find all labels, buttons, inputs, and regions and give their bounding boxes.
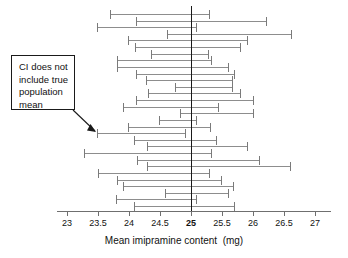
confidence-interval-upper-cap [290,162,291,171]
confidence-interval-bar [128,127,211,128]
confidence-interval-bar [134,206,235,207]
confidence-interval-upper-cap [266,17,267,26]
confidence-interval-bar [97,27,197,28]
confidence-interval-lower-cap [117,63,118,72]
confidence-interval-lower-cap [134,202,135,211]
confidence-interval-upper-cap [210,123,211,132]
confidence-interval-bar [97,133,186,134]
confidence-interval-bar [175,87,233,88]
confidence-interval-lower-cap [137,156,138,165]
confidence-interval-upper-cap [291,30,292,39]
x-axis-tick [284,212,285,216]
confidence-interval-bar [98,173,210,174]
plot-area: 2323.52424.52525.52626.527 Mean imiprami… [0,0,348,258]
confidence-interval-bar [117,180,222,181]
confidence-interval-bar [151,54,209,55]
confidence-interval-lower-cap [135,43,136,52]
confidence-interval-lower-cap [136,70,137,79]
confidence-interval-lower-cap [128,36,129,45]
confidence-interval-upper-cap [253,109,254,118]
x-axis-tick [98,212,99,216]
confidence-interval-upper-cap [234,202,235,211]
confidence-interval-bar [148,93,241,94]
confidence-interval-bar [147,166,291,167]
confidence-interval-upper-cap [234,70,235,79]
confidence-interval-bar [167,34,292,35]
confidence-interval-bar [110,14,210,15]
confidence-interval-lower-cap [98,169,99,178]
confidence-interval-figure: 2323.52424.52525.52626.527 Mean imiprami… [0,0,348,258]
callout-line-1: CI does not [19,61,68,74]
confidence-interval-bar [117,60,212,61]
confidence-interval-upper-cap [228,189,229,198]
confidence-interval-upper-cap [247,36,248,45]
confidence-interval-bar [123,186,234,187]
x-axis-tick [253,212,254,216]
confidence-interval-row [134,202,235,211]
confidence-interval-bar [147,146,248,147]
confidence-interval-lower-cap [97,23,98,32]
confidence-interval-lower-cap [123,103,124,112]
x-axis-tick [315,212,316,216]
x-axis-tick-label: 27 [295,218,335,229]
x-axis-title: Mean imipramine content (mg) [0,235,348,246]
confidence-interval-lower-cap [110,10,111,19]
confidence-interval-lower-cap [134,136,135,145]
confidence-interval-bar [84,153,212,154]
ci-does-not-include-true-mean-callout: CI does not include true population mean [11,55,75,110]
confidence-interval-upper-cap [240,43,241,52]
confidence-interval-bar [123,107,219,108]
true-population-mean-line [191,6,193,216]
x-axis-tick [191,212,192,216]
confidence-interval-bar [135,47,241,48]
x-axis-tick [67,212,68,216]
confidence-interval-bar [134,140,217,141]
x-axis-tick [160,212,161,216]
confidence-interval-lower-cap [117,176,118,185]
confidence-interval-upper-cap [233,182,234,191]
confidence-interval-bar [117,67,229,68]
confidence-interval-bar [136,21,267,22]
callout-line-4: mean [19,99,68,112]
confidence-interval-bar [128,40,248,41]
confidence-interval-lower-cap [146,76,147,85]
confidence-interval-lower-cap [123,182,124,191]
confidence-interval-bar [136,100,254,101]
confidence-interval-upper-cap [247,142,248,151]
confidence-interval-bar [116,199,197,200]
confidence-interval-bar [165,193,229,194]
confidence-interval-bar [137,160,260,161]
x-axis-tick [222,212,223,216]
confidence-interval-lower-cap [116,195,117,204]
callout-line-2: include true [19,74,68,87]
confidence-interval-upper-cap [253,96,254,105]
x-axis-tick [129,212,130,216]
confidence-interval-bar [136,74,235,75]
confidence-interval-lower-cap [84,149,85,158]
callout-line-3: population [19,86,68,99]
confidence-interval-bar [146,80,233,81]
confidence-interval-lower-cap [97,129,98,138]
